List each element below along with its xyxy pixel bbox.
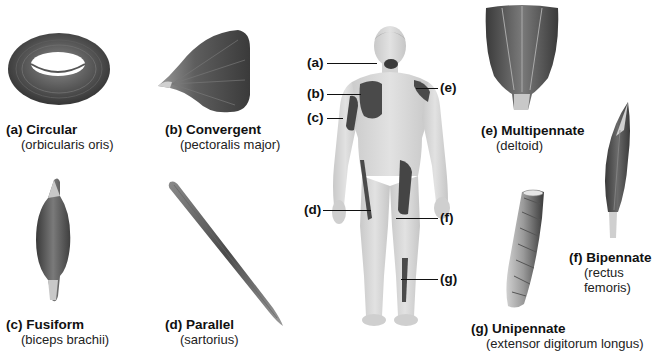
caption-example-line2: femoris) xyxy=(569,280,652,295)
bipennate-muscle-illustration xyxy=(598,100,638,240)
body-label-g: (g) xyxy=(440,272,457,286)
orbicularis-oris-highlight xyxy=(384,59,398,69)
body-label-c: (c) xyxy=(307,111,324,125)
leader-line-f xyxy=(396,218,438,219)
caption-title: (c) Fusiform xyxy=(6,317,109,332)
body-label-e: (e) xyxy=(440,81,457,95)
body-label-d: (d) xyxy=(304,203,321,217)
caption-example: (biceps brachii) xyxy=(6,332,109,347)
caption-fusiform: (c) Fusiform (biceps brachii) xyxy=(6,317,109,347)
caption-convergent: (b) Convergent (pectoralis major) xyxy=(165,122,280,152)
caption-circular: (a) Circular (orbicularis oris) xyxy=(6,122,113,152)
human-body-figure xyxy=(330,26,450,336)
caption-example: (extensor digitorum longus) xyxy=(471,336,644,351)
body-label-a: (a) xyxy=(307,56,324,70)
multipennate-muscle-illustration xyxy=(482,0,562,115)
caption-title: (b) Convergent xyxy=(165,122,280,137)
leader-line-c xyxy=(327,118,343,119)
caption-example: (deltoid) xyxy=(481,138,585,153)
caption-title: (g) Unipennate xyxy=(471,321,644,336)
caption-parallel: (d) Parallel (sartorius) xyxy=(165,317,239,347)
caption-unipennate: (g) Unipennate (extensor digitorum longu… xyxy=(471,321,644,351)
leader-line-g xyxy=(401,279,438,280)
fusiform-muscle-illustration xyxy=(28,176,78,311)
body-label-b: (b) xyxy=(307,87,324,101)
caption-example: (pectoralis major) xyxy=(165,137,280,152)
parallel-muscle-illustration xyxy=(165,180,295,330)
caption-example: (sartorius) xyxy=(165,332,239,347)
caption-example-line1: (rectus xyxy=(569,265,652,280)
caption-title: (e) Multipennate xyxy=(481,123,585,138)
caption-example: (orbicularis oris) xyxy=(6,137,113,152)
pectoralis-major-highlight xyxy=(360,81,383,119)
leader-line-b xyxy=(327,94,361,95)
leader-line-d xyxy=(323,210,371,211)
caption-title: (f) Bipennate xyxy=(569,250,652,265)
convergent-muscle-illustration xyxy=(150,20,260,120)
leader-line-a xyxy=(327,63,377,64)
leader-line-e xyxy=(416,88,438,89)
caption-bipennate: (f) Bipennate (rectus femoris) xyxy=(569,250,652,295)
circular-muscle-illustration xyxy=(0,0,120,120)
caption-multipennate: (e) Multipennate (deltoid) xyxy=(481,123,585,153)
unipennate-muscle-illustration xyxy=(500,188,550,313)
body-label-f: (f) xyxy=(440,211,454,225)
caption-title: (d) Parallel xyxy=(165,317,239,332)
caption-title: (a) Circular xyxy=(6,122,113,137)
